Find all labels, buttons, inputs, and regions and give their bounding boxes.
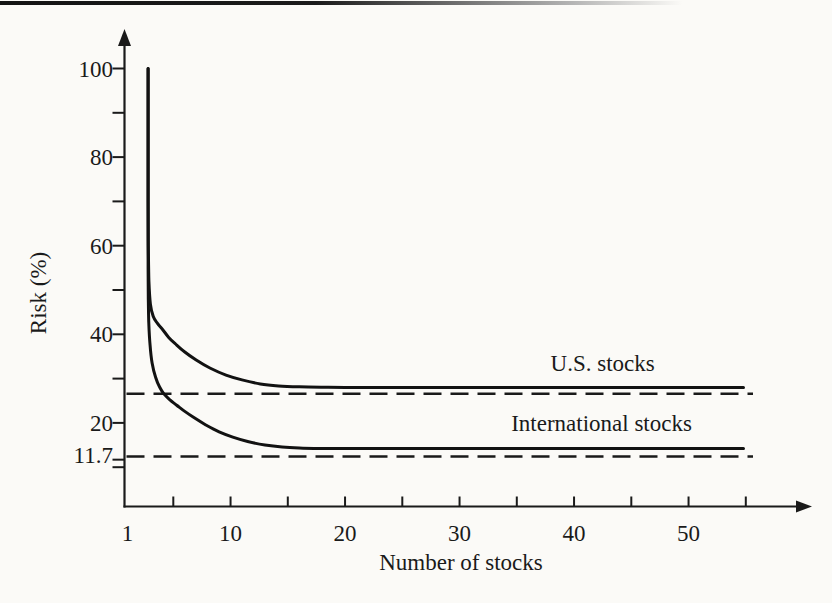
x-axis-tick-label-50: 50 bbox=[677, 521, 700, 546]
y-axis-tick-label-60: 60 bbox=[90, 234, 113, 259]
y-axis-tick-label-11.7: 11.7 bbox=[74, 443, 113, 468]
x-axis-tick-label-20: 20 bbox=[334, 521, 357, 546]
y-axis-arrow-icon bbox=[118, 29, 131, 46]
diversification-risk-chart: 1008060402011.711020304050Number of stoc… bbox=[0, 0, 832, 603]
y-axis-tick-label-100: 100 bbox=[79, 57, 114, 82]
us-stocks-curve bbox=[148, 69, 743, 388]
x-axis-tick-label-40: 40 bbox=[563, 521, 586, 546]
x-axis-tick-label-1: 1 bbox=[122, 521, 134, 546]
y-axis-title: Risk (%) bbox=[26, 252, 51, 334]
international-stocks-curve bbox=[148, 69, 743, 449]
x-axis-title: Number of stocks bbox=[379, 550, 543, 575]
y-axis-tick-label-80: 80 bbox=[90, 145, 113, 170]
x-axis-tick-label-30: 30 bbox=[448, 521, 471, 546]
y-axis-tick-label-40: 40 bbox=[90, 322, 113, 347]
y-axis-tick-label-20: 20 bbox=[90, 411, 113, 436]
international-stocks-label: International stocks bbox=[511, 411, 692, 436]
x-axis-arrow-icon bbox=[796, 501, 812, 513]
x-axis-tick-label-10: 10 bbox=[219, 521, 242, 546]
us-stocks-label: U.S. stocks bbox=[551, 351, 655, 376]
figure-page: 1008060402011.711020304050Number of stoc… bbox=[0, 0, 832, 603]
